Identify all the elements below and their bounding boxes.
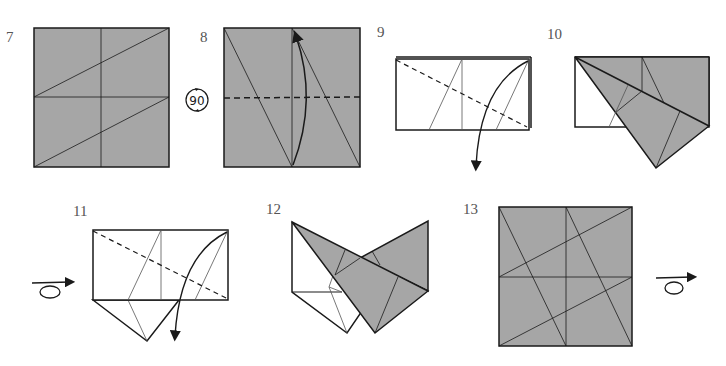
- step-12-diagram: [292, 221, 428, 333]
- turn-over-icon: [32, 282, 70, 298]
- step-8-diagram: [224, 28, 360, 167]
- step-7-diagram: [34, 28, 169, 167]
- step-13-diagram: [499, 207, 632, 346]
- step-9-diagram: [396, 57, 531, 166]
- origami-diagram: 7 8 9 10 11 12 13 90: [0, 0, 726, 366]
- diagram-drawings: 90: [0, 0, 726, 366]
- rotate-90-icon: 90: [186, 88, 208, 112]
- svg-text:90: 90: [189, 94, 204, 108]
- turn-over-icon-right: [656, 277, 692, 294]
- step-11-diagram: [93, 230, 228, 341]
- step-10-diagram: [575, 57, 709, 168]
